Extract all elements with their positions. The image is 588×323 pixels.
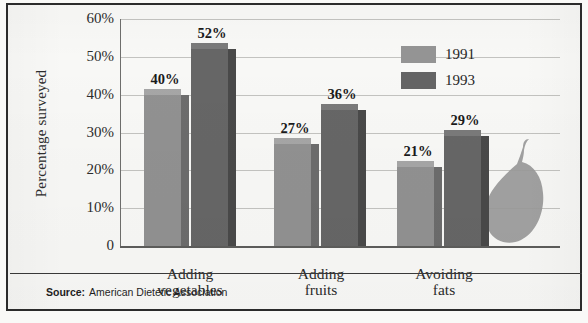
bar-value-label: 27% xyxy=(268,120,322,137)
legend-item-1993[interactable]: 1993 xyxy=(401,69,511,91)
bar-value-label: 21% xyxy=(391,143,445,160)
bar-value-label: 40% xyxy=(138,71,192,88)
figure-frame: Percentage surveyed 60% 50% 40% 30% 20% … xyxy=(6,3,582,311)
bar-group-adding-vegetables: 40% 52% xyxy=(144,19,244,246)
bar-1991-avoiding-fats[interactable]: 21% xyxy=(397,167,434,247)
x-axis-line xyxy=(120,246,560,248)
y-axis-title: Percentage surveyed xyxy=(33,39,50,229)
legend: 1991 1993 xyxy=(401,43,511,95)
bar-1991-adding-fruits[interactable]: 27% xyxy=(274,144,311,246)
y-tick-40: 40% xyxy=(87,86,115,103)
bar-front-face xyxy=(321,110,358,246)
y-tick-50: 50% xyxy=(87,48,115,65)
bar-side-face xyxy=(181,95,189,246)
bar-1991-adding-vegetables[interactable]: 40% xyxy=(144,95,181,246)
source-label: Source: xyxy=(46,286,85,298)
bar-front-face xyxy=(191,49,228,246)
y-tick-60: 60% xyxy=(87,10,115,27)
bar-1993-avoiding-fats[interactable]: 29% xyxy=(444,136,481,246)
bar-value-label: 29% xyxy=(438,112,492,129)
source-note: Source:American Dietetic Association xyxy=(46,286,227,298)
y-axis-line xyxy=(120,19,121,248)
chart-area: Percentage surveyed 60% 50% 40% 30% 20% … xyxy=(8,5,584,273)
bar-side-face xyxy=(311,144,319,246)
bar-front-face xyxy=(397,167,434,247)
bar-front-face xyxy=(144,95,181,246)
footer-divider xyxy=(10,273,582,274)
bar-side-face xyxy=(358,110,366,246)
bar-side-face xyxy=(434,167,442,247)
y-tick-10: 10% xyxy=(87,199,115,216)
y-tick-30: 30% xyxy=(87,124,115,141)
bar-1993-adding-fruits[interactable]: 36% xyxy=(321,110,358,246)
legend-label: 1993 xyxy=(445,72,475,89)
legend-item-1991[interactable]: 1991 xyxy=(401,43,511,65)
legend-swatch-icon xyxy=(401,72,436,89)
source-text: American Dietetic Association xyxy=(89,286,227,298)
category-label-avoiding-fats: Avoiding fats xyxy=(369,266,519,298)
bar-front-face xyxy=(444,136,481,246)
chart-figure: Percentage surveyed 60% 50% 40% 30% 20% … xyxy=(0,0,588,323)
y-tick-0: 0 xyxy=(107,237,115,254)
y-tick-20: 20% xyxy=(87,161,115,178)
bar-side-face xyxy=(481,136,489,246)
bar-value-label: 52% xyxy=(185,25,239,42)
bar-side-face xyxy=(228,49,236,246)
bar-group-adding-fruits: 27% 36% xyxy=(274,19,374,246)
legend-swatch-icon xyxy=(401,46,436,63)
bar-1993-adding-vegetables[interactable]: 52% xyxy=(191,49,228,246)
bar-front-face xyxy=(274,144,311,246)
category-line-2: fats xyxy=(369,282,519,298)
legend-label: 1991 xyxy=(445,46,475,63)
bar-value-label: 36% xyxy=(315,86,369,103)
